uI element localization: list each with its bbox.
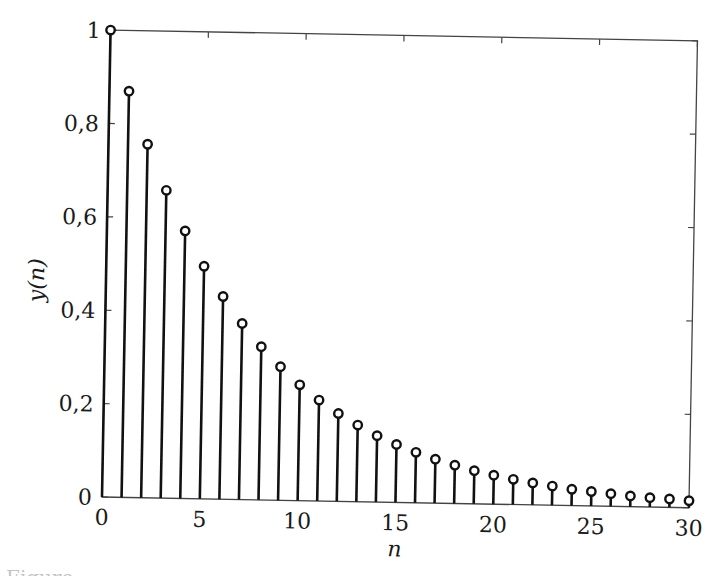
stem-marker — [529, 479, 538, 488]
stem-marker — [257, 342, 266, 351]
y-tick-label: 1 — [86, 18, 100, 43]
plot-area: 05101520253000,20,40,60,81ny(n) — [19, 17, 712, 567]
stem-line — [259, 347, 262, 500]
stem-line — [200, 266, 204, 499]
stem-marker — [315, 396, 324, 405]
y-tick-label: 0,6 — [62, 204, 97, 230]
stem-marker — [162, 186, 171, 195]
x-tick-label: 10 — [283, 508, 311, 534]
stem-line — [435, 459, 436, 503]
stem-marker — [451, 461, 460, 470]
stem-marker — [431, 455, 440, 464]
stem-marker — [143, 140, 152, 149]
stem-marker — [412, 448, 421, 457]
stem-marker — [125, 87, 134, 96]
chart-canvas: 05101520253000,20,40,60,81ny(n) — [0, 0, 717, 576]
stem-marker — [181, 227, 190, 236]
y-tick-label: 0,4 — [60, 297, 95, 323]
stem-marker — [106, 26, 115, 35]
stem-line — [180, 231, 185, 499]
stem-line — [317, 400, 319, 501]
plot-frame — [102, 30, 697, 508]
stem-marker — [607, 489, 616, 498]
x-tick-label: 5 — [192, 507, 206, 532]
stem-marker — [490, 471, 499, 480]
stem-marker — [626, 492, 635, 501]
stem-marker — [646, 493, 655, 502]
x-tick-label: 0 — [94, 505, 108, 530]
stem-line — [337, 414, 339, 502]
x-tick-label: 15 — [381, 510, 409, 536]
stem-line — [161, 190, 167, 498]
stem-marker — [548, 482, 557, 491]
stem-line — [122, 91, 129, 497]
stem-marker — [200, 262, 209, 271]
x-tick-label: 20 — [479, 512, 507, 538]
stem-marker — [509, 475, 518, 484]
stem-chart: 05101520253000,20,40,60,81ny(n) — [0, 0, 717, 576]
stem-marker — [276, 362, 285, 371]
stem-marker — [373, 431, 382, 440]
stem-marker — [238, 319, 247, 328]
stem-line — [141, 144, 147, 497]
stem-line — [454, 465, 455, 503]
stem-marker — [470, 466, 479, 475]
stem-line — [278, 367, 280, 501]
stem-marker — [334, 409, 343, 418]
stem-marker — [219, 292, 228, 301]
y-tick-label: 0,2 — [58, 391, 93, 417]
stem-line — [415, 452, 416, 502]
stem-marker — [568, 485, 577, 494]
stem-marker — [295, 381, 304, 390]
stem-line — [376, 436, 377, 502]
y-tick-label: 0,8 — [64, 111, 99, 137]
stem-marker — [353, 421, 362, 430]
stem-line — [395, 444, 396, 502]
stem-line — [239, 323, 242, 499]
stem-marker — [392, 440, 401, 449]
y-tick-label: 0 — [78, 485, 92, 510]
y-axis-label: y(n) — [24, 258, 50, 303]
stem-line — [219, 297, 223, 500]
stem-line — [298, 385, 300, 501]
stem-marker — [685, 496, 694, 505]
x-axis-label: n — [387, 536, 402, 561]
x-tick-label: 30 — [674, 515, 702, 541]
figure-caption: Figure — [6, 566, 73, 576]
x-tick-label: 25 — [576, 514, 604, 540]
stem-marker — [665, 495, 674, 504]
stem-line — [102, 30, 111, 497]
stem-marker — [587, 487, 596, 496]
stem-line — [356, 425, 357, 502]
